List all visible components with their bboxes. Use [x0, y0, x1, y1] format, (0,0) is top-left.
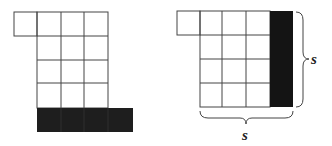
- left-extra-square: [14, 12, 37, 36]
- bottom-brace-icon: [200, 111, 293, 124]
- left-shaded-strip: [37, 108, 133, 132]
- right-brace-icon: [296, 12, 309, 107]
- right-extra-square: [177, 11, 200, 35]
- left-figure: [14, 12, 108, 108]
- right-shaded-column: [270, 11, 293, 107]
- side-label-bottom: s: [241, 127, 248, 143]
- side-label-right: s: [310, 51, 317, 67]
- diagram-canvas: s s: [0, 0, 332, 146]
